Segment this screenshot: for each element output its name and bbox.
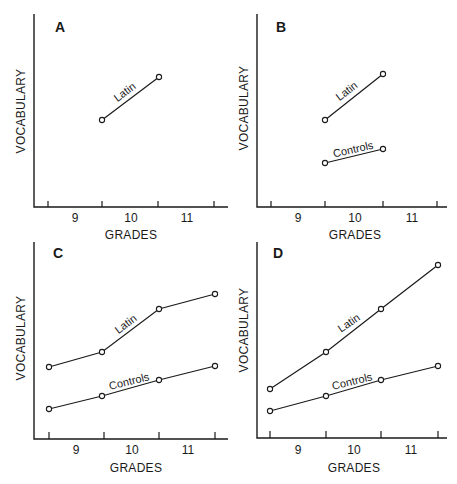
x-tick-label: 11 [406,211,419,225]
series-controls: Controls [322,139,385,166]
y-axis-label: VOCABULARY [237,66,251,151]
y-axis-label: VOCABULARY [14,296,28,381]
x-tick-label: 9 [73,443,80,457]
panel-a: 9 10 11 GRADES VOCABULARY A Latin [14,14,228,242]
panel-c: 9 10 11 GRADES VOCABULARY C Latin Contro… [14,242,228,475]
series-latin: Latin [99,74,161,122]
y-axis-label: VOCABULARY [237,288,251,373]
series-label-latin: Latin [112,312,138,336]
x-axis-label: GRADES [105,228,157,242]
data-point [46,364,51,369]
panel-letter: C [53,245,63,261]
y-axis-label: VOCABULARY [14,69,28,154]
data-point [323,393,328,398]
panel-letter: A [55,19,65,35]
panel-d: 9 10 11 GRADES VOCABULARY D Latin Contro… [237,242,447,475]
data-point [435,363,440,368]
x-tick-label: 10 [347,443,361,457]
panel-b: 9 10 11 GRADES VOCABULARY B Latin Contro… [237,14,447,242]
data-point [212,291,217,296]
data-point [378,377,383,382]
x-ticks [48,201,214,207]
data-point [46,406,51,411]
x-tick-label: 9 [72,211,79,225]
data-point [99,117,104,122]
data-point [435,262,440,267]
x-tick-label: 9 [295,211,302,225]
x-axis-label: GRADES [329,228,381,242]
x-tick-label: 11 [405,443,418,457]
x-tick-label: 10 [348,211,362,225]
x-tick-label: 10 [124,211,138,225]
data-point [212,363,217,368]
figure: 9 10 11 GRADES VOCABULARY A Latin 9 10 1… [0,0,457,484]
x-tick-label: 11 [182,443,195,457]
data-point [156,377,161,382]
data-point [156,306,161,311]
axes-frame [257,242,447,438]
data-point [322,160,327,165]
data-point [156,74,161,79]
series-controls: Controls [46,363,217,411]
x-axis-label: GRADES [328,461,380,475]
axes-frame [34,14,228,207]
series-latin: Latin [46,291,217,369]
data-point [267,408,272,413]
data-point [267,386,272,391]
series-label-latin: Latin [333,79,359,103]
data-point [323,349,328,354]
axes-frame [257,14,447,207]
axes-frame [34,242,228,439]
x-tick-label: 10 [125,443,139,457]
x-ticks [49,432,215,439]
series-latin: Latin [322,71,385,122]
series-label-latin: Latin [336,311,362,334]
data-point [322,117,327,122]
series-label-latin: Latin [111,80,137,104]
data-point [380,71,385,76]
data-point [99,349,104,354]
panel-letter: B [276,19,286,35]
x-ticks [270,431,438,438]
x-ticks [271,201,437,207]
data-point [378,306,383,311]
panel-letter: D [273,245,283,261]
data-point [380,146,385,151]
series-controls: Controls [267,363,440,413]
data-point [99,393,104,398]
x-tick-label: 9 [295,443,302,457]
x-axis-label: GRADES [110,461,162,475]
x-tick-label: 11 [181,211,194,225]
